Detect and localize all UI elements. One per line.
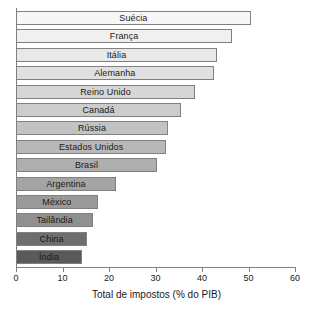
- bar-row: Estados Unidos: [16, 140, 166, 154]
- bar-label: França: [16, 29, 232, 43]
- bar-row: Brasil: [16, 158, 157, 172]
- x-tick-label: 60: [280, 273, 310, 283]
- bar-row: Canadá: [16, 103, 181, 117]
- bar-row: China: [16, 232, 87, 246]
- x-tick-mark: [63, 267, 64, 272]
- bar-label: Reino Unido: [16, 85, 195, 99]
- x-tick-mark: [16, 267, 17, 272]
- bar-row: Itália: [16, 48, 217, 62]
- x-tick-label: 50: [234, 273, 264, 283]
- x-tick-mark: [109, 267, 110, 272]
- bar-label: Itália: [16, 48, 217, 62]
- bar-row: Suécia: [16, 11, 251, 25]
- bar-row: França: [16, 29, 232, 43]
- x-tick-label: 20: [94, 273, 124, 283]
- bar-label: China: [16, 232, 87, 246]
- x-tick-label: 30: [141, 273, 171, 283]
- bar-row: Alemanha: [16, 66, 214, 80]
- x-tick-label: 0: [1, 273, 31, 283]
- bar-row: Argentina: [16, 177, 116, 191]
- bar-row: Tailândia: [16, 213, 93, 227]
- bar-label: Brasil: [16, 158, 157, 172]
- bar-row: México: [16, 195, 98, 209]
- bar-label: México: [16, 195, 98, 209]
- bar-row: Reino Unido: [16, 85, 195, 99]
- bar-label: Índia: [16, 250, 82, 264]
- x-tick-mark: [202, 267, 203, 272]
- bar-label: Canadá: [16, 103, 181, 117]
- x-axis-title: Total de impostos (% do PIB): [0, 289, 313, 300]
- bar-label: Suécia: [16, 11, 251, 25]
- bar-row: Rússia: [16, 121, 168, 135]
- bar-label: Rússia: [16, 121, 168, 135]
- bar-label: Estados Unidos: [16, 140, 166, 154]
- x-tick-mark: [249, 267, 250, 272]
- bar-label: Alemanha: [16, 66, 214, 80]
- bar-label: Argentina: [16, 177, 116, 191]
- x-tick-mark: [156, 267, 157, 272]
- bar-row: Índia: [16, 250, 82, 264]
- tax-revenue-bar-chart: SuéciaFrançaItáliaAlemanhaReino UnidoCan…: [0, 0, 313, 311]
- x-tick-label: 40: [187, 273, 217, 283]
- x-tick-mark: [295, 267, 296, 272]
- bar-label: Tailândia: [16, 213, 93, 227]
- x-tick-label: 10: [48, 273, 78, 283]
